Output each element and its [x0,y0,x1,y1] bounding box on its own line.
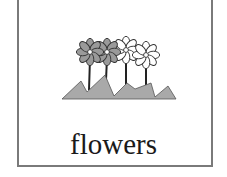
card-caption: flowers [0,127,227,161]
flower-gray-1 [76,38,103,65]
ground-hills [62,75,176,99]
flower-white-2 [132,41,159,68]
